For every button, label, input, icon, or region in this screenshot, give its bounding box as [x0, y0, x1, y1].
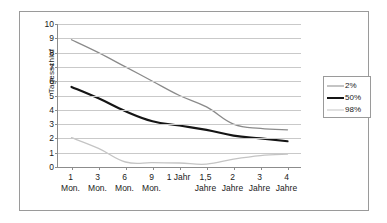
legend-item[interactable]: 98% [326, 104, 368, 116]
legend-line-swatch-icon [326, 106, 345, 114]
legend-item[interactable]: 50% [326, 92, 368, 104]
x-axis-tick-mark [180, 167, 181, 170]
chart-figure-frame: Tagesschlaf 012345678910 1Mon.3Mon.6Mon.… [19, 11, 369, 211]
legend-line-swatch-icon [326, 82, 345, 90]
x-axis-tick-mark [72, 167, 73, 170]
y-axis-tick-mark [55, 24, 58, 25]
y-axis-tick-mark [55, 124, 58, 125]
y-axis-tick-label: 3 [34, 120, 54, 128]
gridline [58, 53, 301, 54]
gridline [58, 110, 301, 111]
y-axis-tick-label: 2 [34, 134, 54, 142]
x-axis-tick-mark [126, 167, 127, 170]
gridline [58, 67, 301, 68]
x-axis-tick-mark [288, 167, 289, 170]
plot-area [57, 24, 301, 168]
x-axis-tick-label-line2: Jahre [264, 183, 310, 194]
x-axis-tick-mark [99, 167, 100, 170]
y-axis-tick-mark [55, 96, 58, 97]
legend-item-label: 50% [345, 94, 361, 102]
y-axis-tick-label: 0 [34, 163, 54, 171]
gridline [58, 38, 301, 39]
x-axis-tick-labels: 1Mon.3Mon.6Mon.9Mon.1 Jahr1,5Jahre2Jahre… [57, 172, 307, 204]
x-axis-tick-label-line2: Mon. [129, 183, 175, 194]
legend-item-label: 98% [345, 106, 361, 114]
y-axis-tick-mark [55, 153, 58, 154]
y-axis-tick-mark [55, 53, 58, 54]
y-axis-tick-label: 9 [34, 34, 54, 42]
y-axis-tick-label: 6 [34, 77, 54, 85]
series-line-98pct [72, 138, 288, 165]
y-axis-tick-label: 4 [34, 106, 54, 114]
x-axis-tick-mark [234, 167, 235, 170]
gridline [58, 124, 301, 125]
y-axis-tick-mark [55, 38, 58, 39]
y-axis-tick-label: 8 [34, 49, 54, 57]
gridline [58, 81, 301, 82]
y-axis-tick-mark [55, 138, 58, 139]
gridline [58, 24, 301, 25]
gridline [58, 96, 301, 97]
y-axis-tick-label: 5 [34, 92, 54, 100]
chart-legend: 2%50%98% [323, 76, 371, 118]
y-axis-tick-label: 1 [34, 149, 54, 157]
x-axis-tick-mark [207, 167, 208, 170]
y-axis-tick-label: 10 [34, 20, 54, 28]
y-axis-tick-label: 7 [34, 63, 54, 71]
x-axis-tick-label: 4Jahre [264, 172, 310, 194]
y-axis-tick-mark [55, 81, 58, 82]
x-axis-tick-label-line1: 4 [264, 172, 310, 183]
y-axis-tick-mark [55, 167, 58, 168]
x-axis-tick-mark [153, 167, 154, 170]
y-axis-tick-labels: 012345678910 [34, 24, 54, 167]
gridline [58, 153, 301, 154]
gridline [58, 138, 301, 139]
y-axis-tick-mark [55, 67, 58, 68]
legend-item[interactable]: 2% [326, 80, 368, 92]
legend-item-label: 2% [345, 82, 357, 90]
legend-line-swatch-icon [326, 94, 345, 102]
x-axis-tick-mark [261, 167, 262, 170]
y-axis-tick-mark [55, 110, 58, 111]
